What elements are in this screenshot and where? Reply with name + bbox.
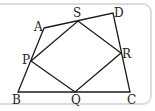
label-p: P (22, 53, 30, 67)
label-b: B (12, 93, 21, 107)
label-r: R (122, 47, 132, 61)
inner-quadrilateral-psrq (31, 21, 121, 92)
label-c: C (127, 93, 136, 107)
label-q: Q (71, 93, 81, 107)
label-d: D (114, 6, 124, 20)
label-s: S (73, 6, 81, 20)
geometry-diagram: A S D R P B Q C (0, 0, 155, 111)
label-a: A (33, 20, 43, 34)
